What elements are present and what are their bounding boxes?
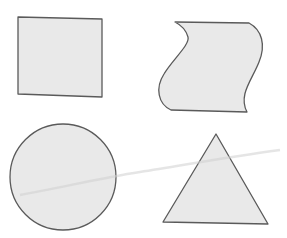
shapes-svg (0, 0, 287, 238)
shapes-diagram (0, 0, 287, 238)
wave-shape (159, 22, 263, 112)
circle-shape (10, 124, 116, 230)
square-shape (18, 17, 102, 97)
triangle-shape (163, 134, 268, 224)
